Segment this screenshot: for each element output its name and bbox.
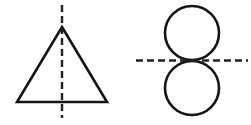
figure-canvas [0, 0, 251, 125]
